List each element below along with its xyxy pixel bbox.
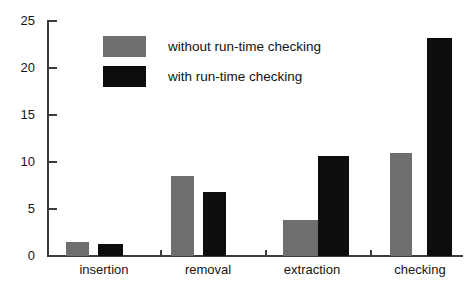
bar-removal-without — [171, 176, 194, 256]
legend-item-without: without run-time checking — [103, 36, 321, 57]
y-tick-mark — [49, 114, 57, 116]
y-tick-label: 20 — [7, 61, 35, 74]
y-tick-mark — [49, 161, 57, 163]
x-axis-label-insertion: insertion — [79, 262, 128, 277]
x-minor-tick-mark — [370, 250, 372, 256]
bar-chart: 2520151050 insertionremovalextractionche… — [0, 0, 476, 297]
y-tick-mark — [49, 208, 57, 210]
legend-item-with: with run-time checking — [103, 66, 321, 87]
bar-removal-with — [203, 192, 226, 256]
y-axis-line — [47, 20, 49, 257]
bar-insertion-with — [98, 244, 123, 256]
bar-extraction-without — [283, 220, 318, 256]
y-tick-label: 0 — [7, 249, 35, 262]
y-tick-mark — [49, 20, 57, 22]
bar-checking-with — [427, 38, 452, 256]
x-axis-label-extraction: extraction — [284, 262, 340, 277]
chart-legend: without run-time checkingwith run-time c… — [103, 36, 321, 96]
legend-label: without run-time checking — [168, 39, 321, 54]
legend-swatch-without — [103, 36, 146, 57]
bar-extraction-with — [318, 156, 349, 256]
x-minor-tick-mark — [160, 250, 162, 256]
x-minor-tick-mark — [265, 250, 267, 256]
bar-checking-without — [390, 153, 412, 256]
y-tick-label: 15 — [7, 108, 35, 121]
y-tick-label: 10 — [7, 155, 35, 168]
y-tick-label: 5 — [7, 202, 35, 215]
x-axis-label-checking: checking — [394, 262, 445, 277]
legend-label: with run-time checking — [168, 69, 302, 84]
bar-insertion-without — [66, 242, 89, 256]
legend-swatch-with — [103, 66, 146, 87]
y-tick-mark — [49, 67, 57, 69]
x-axis-label-removal: removal — [185, 262, 231, 277]
y-tick-label: 25 — [7, 14, 35, 27]
